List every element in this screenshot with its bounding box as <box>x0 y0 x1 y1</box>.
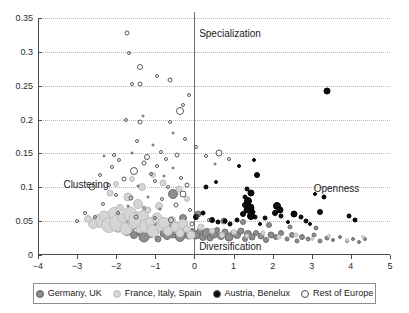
data-point-re <box>137 82 142 87</box>
data-point-re <box>179 191 186 198</box>
x-tick-label: 0 <box>192 262 197 271</box>
data-point-re <box>141 160 146 165</box>
data-point-at <box>201 211 206 216</box>
data-point-fr <box>260 231 265 236</box>
data-point-re <box>168 120 172 124</box>
data-point-fr <box>219 232 225 238</box>
data-point-re <box>137 120 142 125</box>
data-point-fr <box>129 176 135 182</box>
data-point-de <box>331 238 335 242</box>
data-point-de <box>266 222 272 228</box>
data-point-at <box>291 211 298 218</box>
data-point-re <box>168 217 174 223</box>
data-point-re <box>215 150 222 157</box>
y-tick-mark <box>38 187 42 188</box>
y-tick-label: 0.15 <box>15 149 33 158</box>
y-tick-mark <box>38 221 42 222</box>
data-point-fr <box>231 229 237 235</box>
data-point-re <box>183 137 187 141</box>
annotation-specialization: Specialization <box>199 28 261 39</box>
legend-item-2[interactable]: Austria, Benelux <box>213 289 291 298</box>
data-point-de <box>294 238 299 243</box>
data-point-fr <box>198 223 205 230</box>
data-point-re <box>149 172 153 176</box>
data-point-at <box>253 215 258 220</box>
data-point-fr <box>294 232 299 237</box>
data-point-fr <box>310 237 314 241</box>
data-point-at <box>240 211 246 217</box>
data-point-de <box>317 239 322 244</box>
data-point-re <box>190 221 195 226</box>
data-point-re <box>181 103 185 107</box>
legend-item-0[interactable]: Germany, UK <box>36 289 102 298</box>
data-point-de <box>288 224 293 229</box>
data-point-fr <box>276 235 281 240</box>
data-point-re <box>130 152 133 155</box>
x-tick-mark <box>390 255 391 259</box>
data-point-at <box>279 213 284 218</box>
data-point-re <box>144 154 150 160</box>
data-point-fr <box>84 215 92 223</box>
data-point-re <box>153 179 157 183</box>
data-point-re <box>130 167 138 175</box>
data-point-at <box>228 221 233 226</box>
data-point-re <box>117 158 121 162</box>
x-tick-label: 2 <box>270 262 275 271</box>
data-point-re <box>136 184 139 187</box>
data-point-re <box>147 195 150 198</box>
legend-marker-icon <box>113 290 121 298</box>
data-point-re <box>142 206 146 210</box>
data-point-at <box>346 213 351 218</box>
data-point-re <box>213 163 216 166</box>
data-point-re <box>124 118 128 122</box>
y-tick-label: 0.2 <box>20 115 33 124</box>
x-tick-label: 4 <box>348 262 353 271</box>
annotation-clustering: Clustering <box>63 179 108 190</box>
data-point-re <box>98 173 102 177</box>
data-point-re <box>101 202 105 206</box>
data-point-re <box>184 182 189 187</box>
data-point-at <box>222 219 227 224</box>
data-point-fr <box>345 238 349 242</box>
data-point-de <box>313 225 318 230</box>
x-tick-label: 3 <box>309 262 314 271</box>
x-tick-mark <box>194 255 195 259</box>
y-tick-label: 0 <box>28 251 33 260</box>
y-tick-label: 0.05 <box>15 217 33 226</box>
legend-marker-icon <box>213 290 221 298</box>
data-point-at <box>262 215 267 220</box>
data-point-at <box>254 172 260 178</box>
data-point-at <box>252 158 256 162</box>
data-point-re <box>116 211 120 215</box>
data-point-re <box>135 139 139 143</box>
plot-area: 00.050.10.150.20.250.30.35 −4−3−2−101234… <box>38 18 390 255</box>
data-point-re <box>133 215 138 220</box>
x-tick-mark <box>351 255 352 259</box>
data-point-re <box>155 74 159 78</box>
data-point-re <box>130 82 134 86</box>
x-tick-mark <box>38 255 39 259</box>
data-point-de <box>263 237 269 243</box>
x-tick-mark <box>155 255 156 259</box>
data-point-at <box>248 189 255 196</box>
data-point-re <box>227 157 231 161</box>
legend-item-1[interactable]: France, Italy, Spain <box>113 289 202 298</box>
y-tick-label: 0.35 <box>15 14 33 23</box>
data-point-at <box>352 217 357 222</box>
data-point-re <box>159 150 163 154</box>
annotation-diversification: Diversification <box>199 241 261 252</box>
y-tick-mark <box>38 52 42 53</box>
data-point-at <box>237 164 241 168</box>
data-point-de <box>338 235 342 239</box>
x-tick-mark <box>312 255 313 259</box>
legend-item-3[interactable]: Rest of Europe <box>301 289 373 298</box>
data-point-at <box>321 194 326 199</box>
data-point-fr <box>245 234 250 239</box>
x-tick-label: −1 <box>150 262 160 271</box>
y-tick-label: 0.3 <box>20 47 33 56</box>
data-point-fr <box>184 196 190 202</box>
data-point-fr <box>209 228 215 234</box>
data-point-re <box>168 78 173 83</box>
data-point-at <box>204 185 209 190</box>
data-point-re <box>176 107 184 115</box>
